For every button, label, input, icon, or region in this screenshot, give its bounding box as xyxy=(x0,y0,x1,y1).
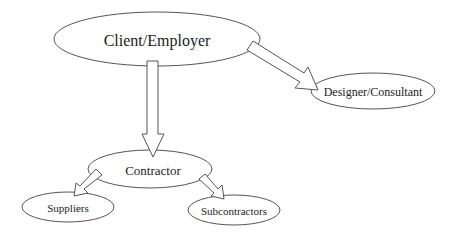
node-label: Contractor xyxy=(125,163,181,178)
node-label: Subcontractors xyxy=(201,205,267,217)
node-label: Client/Employer xyxy=(104,32,211,50)
node-suppliers[interactable]: Suppliers xyxy=(22,192,114,222)
node-subcontractors[interactable]: Subcontractors xyxy=(188,195,280,225)
node-client-employer[interactable]: Client/Employer xyxy=(54,12,260,66)
arrow-client-to-designer xyxy=(247,41,318,90)
node-label: Suppliers xyxy=(47,202,89,214)
node-label: Designer/Consultant xyxy=(324,85,423,99)
relationship-diagram: Client/Employer Designer/Consultant Cont… xyxy=(0,0,453,238)
node-designer-consultant[interactable]: Designer/Consultant xyxy=(311,73,435,109)
arrow-client-to-contractor xyxy=(142,61,164,157)
node-contractor[interactable]: Contractor xyxy=(88,150,212,188)
arrow-contractor-to-suppliers xyxy=(74,169,102,196)
arrow-contractor-to-subcontractors xyxy=(199,174,224,199)
